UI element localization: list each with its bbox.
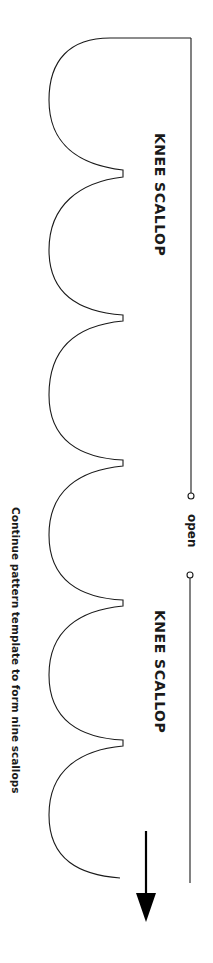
opening-label: open (185, 514, 199, 548)
instruction-label: Continue pattern template to form nine s… (10, 507, 22, 793)
arrow-down-icon (136, 831, 156, 922)
bottom-title-label: KNEE SCALLOP (152, 610, 168, 733)
scallop-pattern-outline (0, 0, 213, 963)
open-marker-top (188, 493, 194, 499)
open-marker-bottom (187, 572, 193, 578)
top-title-label: KNEE SCALLOP (152, 133, 168, 256)
scallop-curve (49, 38, 123, 878)
